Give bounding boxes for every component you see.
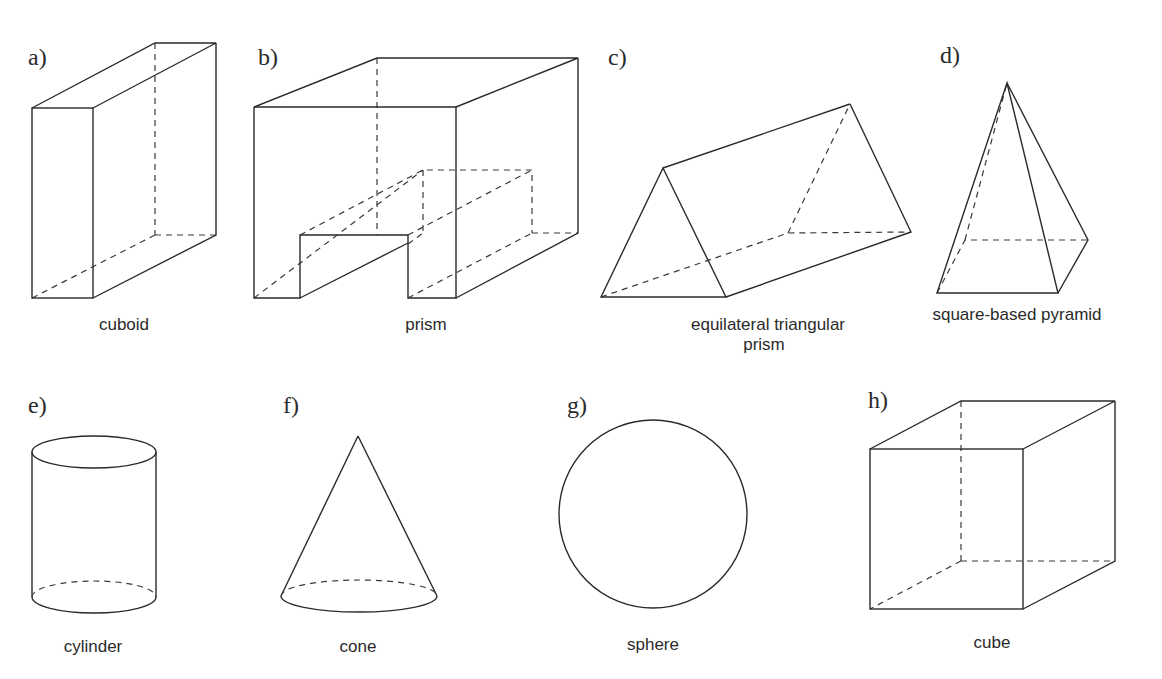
label-letter-a: a) (28, 44, 47, 70)
label-letter-h: h) (868, 387, 888, 413)
caption-triangular-prism-line2: prism (743, 335, 785, 354)
caption-cone: cone (340, 637, 377, 656)
label-letter-c: c) (608, 44, 627, 70)
caption-cube: cube (974, 633, 1011, 652)
label-letter-e: e) (28, 392, 47, 418)
shapes-diagram: a) cuboid b) prism c) (0, 0, 1162, 679)
caption-cuboid: cuboid (99, 315, 149, 334)
label-letter-d: d) (940, 42, 960, 68)
caption-prism: prism (405, 315, 447, 334)
shape-cone: f) cone (281, 392, 437, 656)
label-letter-b: b) (258, 44, 278, 70)
label-letter-g: g) (567, 392, 587, 418)
shape-sphere: g) sphere (559, 392, 747, 654)
label-letter-f: f) (283, 392, 299, 418)
shape-cuboid: a) cuboid (28, 43, 216, 334)
caption-square-pyramid: square-based pyramid (932, 305, 1101, 324)
caption-cylinder: cylinder (64, 637, 123, 656)
shape-square-pyramid: d) square-based pyramid (932, 42, 1101, 324)
shape-triangular-prism: c) equilateral triangular prism (601, 44, 911, 354)
shape-prism: b) prism (254, 44, 578, 334)
shape-cube: h) cube (868, 387, 1115, 652)
caption-triangular-prism-line1: equilateral triangular (691, 315, 845, 334)
shape-cylinder: e) cylinder (28, 392, 156, 656)
caption-sphere: sphere (627, 635, 679, 654)
